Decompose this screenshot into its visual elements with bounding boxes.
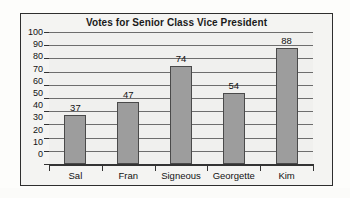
y-axis-tick-label: 60 [21, 77, 43, 86]
x-axis-line [49, 164, 314, 166]
y-axis-tick-label: 80 [21, 52, 43, 61]
y-axis-tick-label: 10 [21, 138, 43, 147]
bar-value-label: 47 [102, 90, 155, 100]
bar[interactable] [170, 66, 192, 164]
bar-value-label: 37 [49, 103, 102, 113]
y-axis-labels: 100 90 80 70 60 50 40 30 20 10 0 [21, 32, 43, 164]
y-axis-tick-label: 20 [21, 126, 43, 135]
x-axis-category-label: Kim [260, 170, 313, 181]
chart-frame: Votes for Senior Class Vice President 10… [20, 13, 333, 186]
x-axis-category-label: Sal [49, 170, 102, 181]
bar-value-label: 54 [207, 81, 260, 91]
plot-area: 37 47 74 54 88 [49, 32, 313, 164]
y-axis-tick-label: 100 [21, 28, 43, 37]
bar[interactable] [64, 115, 86, 164]
scan-edge [0, 188, 350, 198]
chart-title: Votes for Senior Class Vice President [21, 17, 332, 28]
x-axis-category-label: Georgette [207, 170, 260, 181]
y-axis-tick-label: 30 [21, 113, 43, 122]
y-axis-tick-label: 40 [21, 101, 43, 110]
x-axis-tick [313, 166, 314, 171]
bar[interactable] [223, 93, 245, 164]
gridline [49, 32, 313, 33]
y-axis-tick-label: 90 [21, 40, 43, 49]
bar-value-label: 74 [155, 54, 208, 64]
x-axis-category-label: Fran [102, 170, 155, 181]
y-axis-tick-label: 0 [21, 150, 43, 159]
bar-value-label: 88 [260, 36, 313, 46]
y-axis-tick-label: 50 [21, 89, 43, 98]
y-axis-tick-label: 70 [21, 65, 43, 74]
x-axis-category-label: Signeous [155, 170, 208, 181]
bar[interactable] [276, 48, 298, 164]
bar[interactable] [117, 102, 139, 164]
